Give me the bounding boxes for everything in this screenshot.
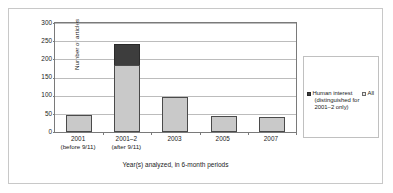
bar[interactable] bbox=[211, 116, 237, 132]
bar-slot bbox=[103, 23, 151, 132]
y-axis-tick-label: 200 bbox=[22, 56, 52, 62]
bar-segment-human-interest[interactable] bbox=[114, 44, 140, 65]
bar[interactable] bbox=[114, 44, 140, 132]
y-axis-tick-label: 150 bbox=[22, 74, 52, 80]
x-axis-label-line1: 2001 bbox=[71, 135, 85, 142]
legend: Human interest (distinguished for 2001–2… bbox=[303, 56, 379, 138]
bar-slot bbox=[55, 23, 103, 132]
bar-slot bbox=[248, 23, 296, 132]
x-axis-label: 2001(before 9/11) bbox=[54, 135, 102, 152]
x-axis-label-line1: 2003 bbox=[167, 135, 181, 142]
bar[interactable] bbox=[259, 117, 285, 132]
x-axis-label: 2003 bbox=[150, 135, 198, 143]
plot-area: Number of articles 050100150200250300 bbox=[54, 22, 297, 133]
x-axis-label: 2005 bbox=[199, 135, 247, 143]
legend-item-all: All bbox=[362, 90, 374, 97]
legend-content: Human interest (distinguished for 2001–2… bbox=[307, 90, 376, 112]
x-axis-title: Year(s) analyzed, in 6-month periods bbox=[54, 161, 297, 168]
bar[interactable] bbox=[162, 97, 188, 132]
x-axis-label-line2: (after 9/11) bbox=[102, 143, 150, 151]
y-axis-tick-label: 50 bbox=[22, 111, 52, 117]
bar-series-group bbox=[55, 23, 296, 132]
bar-segment-all[interactable] bbox=[114, 65, 140, 132]
y-axis-tick-label: 300 bbox=[22, 20, 52, 26]
x-axis-label-line1: 2007 bbox=[264, 135, 278, 142]
legend-label-line1: Human interest bbox=[313, 90, 353, 96]
bar-segment-all[interactable] bbox=[66, 115, 92, 132]
x-axis-label: 2001–2(after 9/11) bbox=[102, 135, 150, 152]
bar-slot bbox=[200, 23, 248, 132]
bar-segment-all[interactable] bbox=[259, 117, 285, 132]
bar-segment-all[interactable] bbox=[162, 97, 188, 132]
legend-label-line3: 2001–2 only) bbox=[313, 104, 360, 111]
y-axis-tick-mark bbox=[53, 132, 55, 133]
x-axis-label-line1: 2005 bbox=[216, 135, 230, 142]
x-axis-labels: 2001(before 9/11)2001–2(after 9/11)20032… bbox=[54, 135, 297, 161]
legend-swatch-human-interest-icon bbox=[307, 92, 311, 96]
x-axis-label: 2007 bbox=[247, 135, 295, 143]
y-axis-tick-label: 0 bbox=[22, 129, 52, 135]
legend-label-line2: (distinguished for bbox=[313, 97, 360, 104]
y-axis-tick-label: 250 bbox=[22, 38, 52, 44]
y-axis-tick-label: 100 bbox=[22, 92, 52, 98]
legend-label-human-interest: Human interest (distinguished for 2001–2… bbox=[313, 90, 360, 112]
legend-swatch-all-icon bbox=[362, 92, 366, 96]
x-axis-label-line2: (before 9/11) bbox=[54, 143, 102, 151]
bar-segment-all[interactable] bbox=[211, 116, 237, 132]
bar[interactable] bbox=[66, 115, 92, 132]
legend-label-all: All bbox=[367, 90, 374, 97]
chart-figure: Number of articles 050100150200250300 20… bbox=[8, 8, 383, 184]
bar-slot bbox=[151, 23, 199, 132]
x-axis-label-line1: 2001–2 bbox=[116, 135, 137, 142]
